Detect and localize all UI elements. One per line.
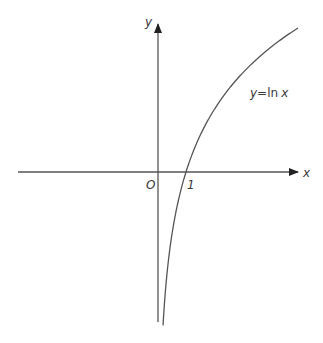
x-axis-label: x [302,166,311,180]
tick-label-one: 1 [187,178,195,192]
origin-label: O [146,178,155,192]
curve-label-eq: = [257,86,267,100]
ln-graph: y x O 1 y=lnx [0,0,323,343]
curve-label-ln: ln [267,86,278,100]
curve-label: y=lnx [249,86,289,100]
ln-curve [163,28,298,326]
curve-label-x: x [280,86,289,100]
y-axis-label: y [144,15,153,29]
